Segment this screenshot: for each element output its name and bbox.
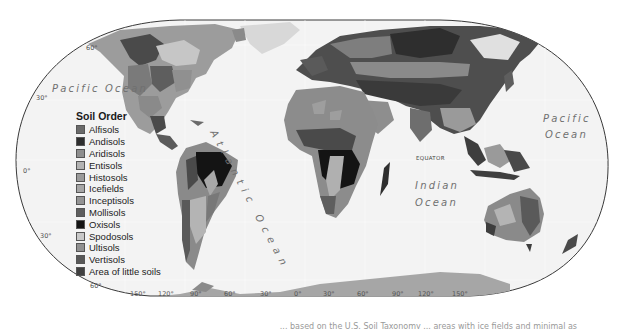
legend-item-mollisols: Mollisols <box>76 207 161 219</box>
legend-title: Soil Order <box>76 110 161 122</box>
equator-label: EQUATOR <box>416 155 445 161</box>
legend-swatch <box>76 149 85 158</box>
longitude-label: 150° <box>452 290 468 298</box>
legend-item-andisols: Andisols <box>76 136 161 148</box>
legend-swatch <box>76 232 85 241</box>
legend-label: Mollisols <box>89 207 125 218</box>
legend-item-histosols: Histosols <box>76 171 161 183</box>
latitude-label-60s: 60° <box>90 282 102 290</box>
legend-swatch <box>76 196 85 205</box>
legend-item-inceptisols: Inceptisols <box>76 195 161 207</box>
legend-swatch <box>76 161 85 170</box>
longitude-label: 30° <box>323 290 335 298</box>
longitude-label: 150° <box>130 290 146 298</box>
legend-label: Vertisols <box>89 254 125 265</box>
longitude-label: 120° <box>158 290 174 298</box>
legend-swatch <box>76 137 85 146</box>
legend-item-little-soils: Area of little soils <box>76 266 161 278</box>
latitude-label-30s: 30° <box>40 232 52 240</box>
legend-label: Histosols <box>89 172 128 183</box>
ocean-label-indian-line2: Ocean <box>415 197 458 208</box>
soil-order-world-map: Pacific Ocean Pacific Ocean Indian Ocean… <box>0 0 619 329</box>
legend-item-spodosols: Spodosols <box>76 230 161 242</box>
legend-label: Aridisols <box>89 148 125 159</box>
legend-label: Inceptisols <box>89 195 134 206</box>
legend-item-vertisols: Vertisols <box>76 254 161 266</box>
legend-swatch <box>76 173 85 182</box>
legend-item-aridisols: Aridisols <box>76 148 161 160</box>
legend-label: Area of little soils <box>89 266 161 277</box>
ocean-label-pacific-west: Pacific Ocean <box>52 83 148 94</box>
longitude-label: 60° <box>357 290 369 298</box>
legend-swatch <box>76 125 85 134</box>
legend-label: Icefields <box>89 183 124 194</box>
legend-label: Ultisols <box>89 242 120 253</box>
legend-item-entisols: Entisols <box>76 159 161 171</box>
legend-swatch <box>76 243 85 252</box>
latitude-label-equator: 0° <box>23 167 30 175</box>
ocean-label-pacific-east-line2: Ocean <box>545 129 588 140</box>
legend-swatch <box>76 208 85 217</box>
legend-item-oxisols: Oxisols <box>76 218 161 230</box>
legend-swatch <box>76 184 85 193</box>
legend-label: Andisols <box>89 136 125 147</box>
longitude-label: 120° <box>418 290 434 298</box>
ocean-label-pacific-east-line1: Pacific <box>543 113 591 124</box>
longitude-label: 60° <box>224 290 236 298</box>
soil-order-legend: Soil Order Alfisols Andisols Aridisols E… <box>76 110 161 277</box>
legend-swatch <box>76 255 85 264</box>
legend-item-icefields: Icefields <box>76 183 161 195</box>
legend-label: Alfisols <box>89 124 119 135</box>
longitude-label: 90° <box>190 290 202 298</box>
longitude-label: 90° <box>392 290 404 298</box>
legend-label: Spodosols <box>89 231 133 242</box>
map-caption: ... based on the U.S. Soil Taxonomy ... … <box>0 321 619 329</box>
longitude-label: 0° <box>294 290 301 298</box>
ocean-label-indian-line1: Indian <box>415 180 459 191</box>
latitude-label-60n: 60° <box>86 44 98 52</box>
longitude-label: 30° <box>260 290 272 298</box>
legend-swatch <box>76 220 85 229</box>
legend-label: Entisols <box>89 160 122 171</box>
legend-swatch <box>76 267 85 276</box>
legend-label: Oxisols <box>89 219 120 230</box>
legend-item-ultisols: Ultisols <box>76 242 161 254</box>
legend-item-alfisols: Alfisols <box>76 124 161 136</box>
latitude-label-30n: 30° <box>36 94 48 102</box>
